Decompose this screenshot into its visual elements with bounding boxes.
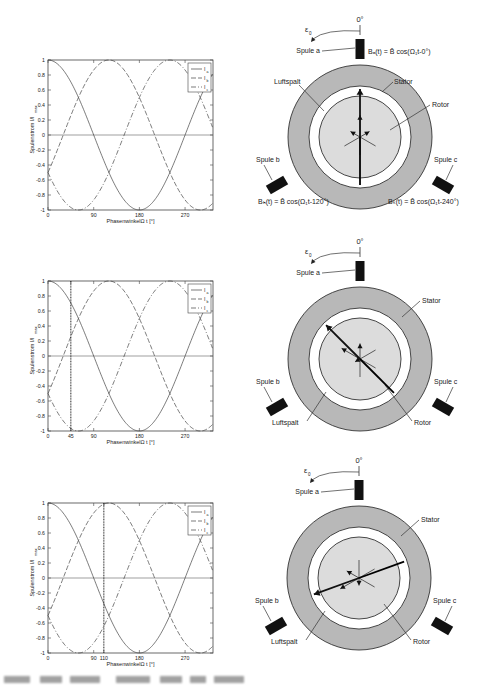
epsilon-arc — [313, 31, 360, 39]
label-rotor: Rotor — [413, 638, 431, 645]
x-tick-label: 90 — [91, 433, 97, 439]
x-tick-label: 90 — [91, 212, 97, 218]
panel-middle: 10.80.60.40.20-0.2-0.4-0.6-0.8-104590180… — [29, 237, 458, 445]
legend-label-sub: a — [207, 513, 209, 517]
y-tick-label: -1 — [40, 650, 45, 656]
y-axis-label-sub: max — [33, 326, 38, 334]
x-tick-label: 270 — [181, 655, 190, 661]
y-tick-label: 0.2 — [38, 338, 45, 344]
y-tick-label: -0.4 — [36, 383, 45, 389]
formula-b-c: Bₖ(t) = B̂ cos(Ω₁t-240°) — [388, 198, 459, 206]
x-axis-label: PhasenwinkelΩ t [°] — [107, 439, 155, 445]
legend: IaIbIc — [188, 63, 211, 92]
leader-spule-b — [264, 165, 272, 180]
epsilon-arc — [313, 253, 360, 261]
label-luftspalt: Luftspalt — [272, 419, 299, 427]
y-tick-label: 0.6 — [38, 87, 45, 93]
y-tick-label: 0 — [42, 132, 45, 138]
y-tick-label: 0.4 — [38, 545, 45, 551]
y-tick-label: 0.4 — [38, 323, 45, 329]
formula-b-a: Bₐ(t) = B̂ cos(Ω₁t-0°) — [368, 48, 431, 56]
legend-label: I — [204, 296, 205, 302]
label-spule-a: Spule a — [296, 47, 320, 55]
legend: IaIbIc — [188, 284, 211, 313]
legend-label: I — [204, 75, 205, 81]
y-tick-label: -0.4 — [36, 605, 45, 611]
coil-c — [432, 398, 454, 417]
x-tick-label: 270 — [181, 433, 190, 439]
legend-label-sub: c — [207, 309, 209, 313]
legend-label: I — [204, 287, 205, 293]
y-tick-label: -0.6 — [36, 177, 45, 183]
y-tick-label: 1 — [42, 278, 45, 284]
y-tick-label: 1 — [42, 500, 45, 506]
epsilon-sub: 0 — [309, 31, 312, 36]
legend-label-sub: c — [207, 531, 209, 535]
figure-canvas: 10.80.60.40.20-0.2-0.4-0.6-0.8-109018027… — [0, 0, 492, 686]
label-spule-c: Spule c — [434, 156, 458, 164]
figure-caption-blurred — [0, 674, 492, 686]
label-spule-c: Spule c — [434, 378, 458, 386]
y-tick-label: 0.8 — [38, 72, 45, 78]
coil-a — [356, 261, 365, 281]
x-tick-label: 270 — [181, 212, 190, 218]
coil-c — [431, 617, 453, 636]
y-tick-label: -0.2 — [36, 368, 45, 374]
label-stator: Stator — [421, 516, 440, 523]
label-spule-a: Spule a — [296, 269, 320, 277]
formula-b-b: Bₕ(t) = B̂ cos(Ω₁t-120°) — [258, 198, 329, 206]
epsilon-arc — [312, 472, 359, 480]
y-tick-label: -0.8 — [36, 413, 45, 419]
coil-a — [356, 39, 365, 59]
legend-label-sub: b — [207, 79, 209, 83]
leader-spule-c — [446, 165, 453, 180]
x-axis-label: PhasenwinkelΩ t [°] — [107, 218, 155, 224]
leader-spule-a — [322, 270, 355, 273]
angle-0-label: 0° — [356, 15, 363, 24]
label-spule-b: Spule b — [256, 156, 280, 164]
coil-a — [355, 480, 364, 500]
y-tick-label: 0.6 — [38, 308, 45, 314]
y-tick-label: -0.4 — [36, 162, 45, 168]
y-tick-label: 0 — [42, 575, 45, 581]
label-luftspalt: Luftspalt — [274, 78, 301, 86]
y-axis-label-sub: max — [33, 105, 38, 113]
motor-diagram: 0°ε0Spule aSpule bSpule cStatorRotorLuft… — [256, 15, 459, 209]
legend-label: I — [204, 84, 205, 90]
coil-b — [266, 176, 288, 195]
y-tick-label: 0.8 — [38, 515, 45, 521]
x-tick-label: 0 — [47, 433, 50, 439]
y-tick-label: -0.2 — [36, 147, 45, 153]
y-tick-label: -1 — [40, 428, 45, 434]
leader-spule-c — [445, 606, 452, 621]
label-rotor: Rotor — [432, 101, 450, 108]
x-tick-label: 0 — [47, 655, 50, 661]
label-spule-c: Spule c — [433, 597, 457, 605]
legend-label: I — [204, 509, 205, 515]
y-axis-label-sub: max — [33, 548, 38, 556]
leader-spule-a — [321, 489, 354, 492]
leader-spule-c — [446, 387, 453, 402]
angle-0-label: 0° — [356, 237, 363, 246]
legend-label: I — [204, 527, 205, 533]
coil-c — [432, 176, 454, 195]
motor-diagram: 0°ε0Spule aSpule bSpule cStatorRotorLuft… — [256, 237, 458, 431]
y-tick-label: -0.8 — [36, 635, 45, 641]
y-tick-label: 0.4 — [38, 102, 45, 108]
y-tick-label: 0 — [42, 353, 45, 359]
legend-label-sub: a — [207, 291, 209, 295]
legend-label: I — [204, 518, 205, 524]
current-plot: 10.80.60.40.20-0.2-0.4-0.6-0.8-104590180… — [29, 278, 213, 445]
label-luftspalt: Luftspalt — [271, 638, 298, 646]
leader-spule-b — [264, 387, 272, 402]
legend-label: I — [204, 66, 205, 72]
panel-top: 10.80.60.40.20-0.2-0.4-0.6-0.8-109018027… — [29, 15, 459, 224]
current-plot: 10.80.60.40.20-0.2-0.4-0.6-0.8-109011018… — [29, 500, 213, 667]
epsilon-sub: 0 — [308, 472, 311, 477]
coil-b — [266, 398, 288, 417]
y-tick-label: -1 — [40, 207, 45, 213]
label-stator: Stator — [394, 78, 413, 85]
leader-spule-b — [263, 606, 271, 621]
coil-b — [265, 617, 287, 636]
x-tick-label: 90 — [91, 655, 97, 661]
